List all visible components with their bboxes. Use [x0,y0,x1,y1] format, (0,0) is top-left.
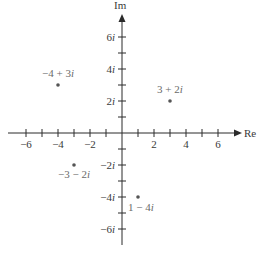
point-dot-icon [56,83,60,87]
x-ticks: −6−4−2246 [20,129,221,150]
y-tick-label: 6i [106,31,115,43]
x-tick-label: 2 [151,138,157,150]
imaginary-axis-arrow-icon [119,14,126,22]
point: −3 − 2i [58,163,90,180]
complex-plane-diagram: Re Im −6−4−2246 6i4i2i−2i−4i−6i −4 + 3i3… [0,0,258,254]
x-tick-label: −2 [84,138,96,150]
point-label: −3 − 2i [58,168,90,180]
x-tick-label: 4 [183,138,189,150]
x-tick-label: −6 [20,138,32,150]
point: 3 + 2i [157,83,183,103]
y-tick-label: −6i [100,223,115,235]
point-dot-icon [168,99,172,103]
point-dot-icon [136,195,140,199]
y-tick-label: −2i [100,159,115,171]
point-label: −4 + 3i [42,67,74,79]
y-tick-label: 2i [106,95,115,107]
real-axis-label: Re [244,127,256,139]
x-tick-label: 6 [215,138,221,150]
point-label: 3 + 2i [157,83,183,95]
point: 1 − 4i [128,195,154,213]
point: −4 + 3i [42,67,74,87]
x-tick-label: −4 [52,138,64,150]
y-tick-label: −4i [100,191,115,203]
point-dot-icon [72,163,76,167]
point-label: 1 − 4i [128,201,154,213]
imaginary-axis-label: Im [114,0,127,11]
y-tick-label: 4i [106,63,115,75]
real-axis-arrow-icon [234,130,242,137]
